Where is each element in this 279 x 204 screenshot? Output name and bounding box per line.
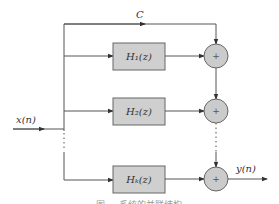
input-label: x(n) [16, 114, 36, 125]
parallel-filter-diagram: x(n) C + H₁(z) + H₂(z) + [0, 0, 279, 204]
filter-label-h2: H₂(z) [125, 106, 152, 117]
bypass-path [64, 24, 216, 44]
figure-caption: 图 … 系统的并联结构 [96, 199, 183, 204]
filter-label-hk: Hₖ(z) [125, 174, 152, 185]
filter-label-h1: H₁(z) [125, 51, 152, 62]
plus-icon: + [212, 51, 220, 61]
bypass-gain-label: C [136, 9, 144, 20]
plus-icon: + [212, 174, 220, 184]
plus-icon: + [212, 106, 220, 116]
output-label: y(n) [235, 163, 256, 174]
